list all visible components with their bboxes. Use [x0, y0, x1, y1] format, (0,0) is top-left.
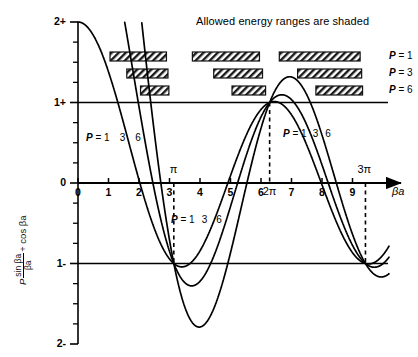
figure-root: Allowed energy ranges are shaded Psin βa… — [0, 0, 418, 357]
allowed-band-p1-1 — [192, 52, 259, 61]
pi-mark-label: π — [170, 164, 178, 175]
band-row-label-2: P = 6 — [389, 85, 413, 95]
allowed-band-p6-2 — [316, 86, 363, 95]
allowed-band-p1-0 — [110, 52, 166, 61]
x-tick-label-9: 9 — [348, 187, 357, 198]
two-pi-mark-label: 2π — [263, 186, 277, 197]
allowed-band-p6-1 — [232, 86, 266, 95]
band-row-label-1: P = 3 — [389, 68, 413, 78]
curve-label-middle: P = 136 — [171, 215, 222, 225]
curves-group — [78, 22, 389, 327]
y-axis-title-p: P — [17, 279, 28, 285]
y-axis-title-fraction: sin βaβa — [14, 253, 33, 278]
y-axis-title-denominator: βa — [24, 253, 33, 278]
x-tick-label-1: 1 — [104, 187, 113, 198]
x-tick-label-4: 4 — [196, 187, 205, 198]
allowed-band-p3-2 — [298, 69, 362, 78]
x-tick-label-2: 2 — [135, 187, 144, 198]
y-axis-title: Psin βaβa+ cos βa — [14, 215, 33, 285]
curve-label-right: P = 136 — [283, 129, 331, 139]
chart-title: Allowed energy ranges are shaded — [196, 16, 369, 27]
x-tick-label-3: 3 — [165, 187, 174, 198]
y-axis-title-tail: + cos βa — [17, 215, 28, 251]
allowed-band-p3-1 — [214, 69, 263, 78]
band-row-label-0: P = 1 — [389, 51, 413, 61]
x-axis-label: βa — [392, 186, 404, 197]
x-tick-label-8: 8 — [318, 187, 327, 198]
x-tick-label-0: 0 — [74, 187, 83, 198]
curve-label-left: P = 136 — [86, 133, 141, 143]
three-pi-mark-label: 3π — [357, 164, 371, 175]
x-tick-label-5: 5 — [226, 187, 235, 198]
x-tick-label-7: 7 — [287, 187, 296, 198]
allowed-band-p1-2 — [279, 52, 360, 61]
allowed-band-p6-0 — [141, 86, 169, 95]
